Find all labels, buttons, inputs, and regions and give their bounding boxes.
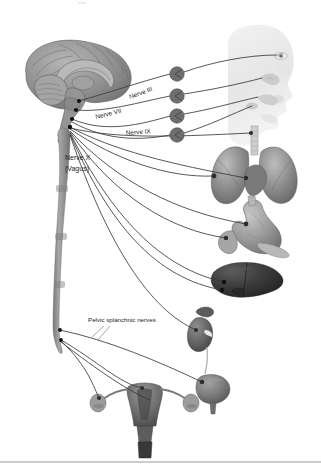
marker-stomach: [244, 222, 249, 227]
pancreas: [257, 243, 289, 258]
pelvic-to-uterus: [61, 340, 142, 388]
origin-pelvic-2: [59, 338, 63, 342]
eye-target: [275, 53, 288, 60]
marker-lung: [212, 174, 217, 179]
kidney-and-adrenal: [187, 307, 213, 374]
heart: [245, 165, 267, 196]
pelvic-to-ovary: [61, 341, 99, 398]
label-leader-lines: [92, 326, 110, 340]
marker-heart: [244, 176, 248, 180]
spinal-cord: [53, 128, 70, 353]
marker-duodenum: [224, 236, 228, 240]
vagus-to-duodenum: [70, 132, 226, 238]
top-artifact-mark: [78, 2, 86, 4]
label-pelvic-splanchnic: Pelvic splanchnic nerves: [88, 316, 156, 323]
uterus-ovaries: [90, 383, 199, 458]
marker-bladder: [200, 380, 205, 385]
diagram-labels: Nerve III Nerve VII Nerve IX Nerve X (Va…: [65, 85, 156, 323]
marker-liver-2: [220, 288, 224, 292]
origin-nerve-10: [68, 125, 72, 129]
label-nerve-10: Nerve X: [65, 154, 91, 161]
label-nerve-9: Nerve IX: [126, 127, 152, 136]
otic-ganglion: [170, 128, 184, 142]
figure-canvas: Nerve III Nerve VII Nerve IX Nerve X (Va…: [0, 0, 321, 475]
marker-ovary: [97, 396, 101, 400]
label-vagus: (Vagus): [65, 165, 89, 173]
marker-trachea: [249, 131, 253, 135]
ciliary-ganglion: [170, 67, 184, 81]
origin-nerve-7: [74, 108, 78, 112]
vagus-to-liver: [70, 133, 224, 282]
stomach-and-duodenum: [218, 196, 289, 258]
marker-uterus: [140, 386, 144, 390]
pelvic-leader-2: [98, 326, 110, 340]
ganglia-group: [170, 67, 184, 142]
origin-nerve-9: [70, 117, 74, 121]
marker-liver: [222, 280, 226, 284]
pterygopalatine-ganglion: [170, 89, 184, 103]
origin-nerve-3: [77, 99, 81, 103]
vagus-to-liver-2: [70, 134, 222, 290]
anatomy-diagram: Nerve III Nerve VII Nerve IX Nerve X (Va…: [0, 0, 321, 475]
nerve-9-preganglionic: [72, 116, 170, 127]
submandibular-ganglion: [170, 109, 184, 123]
head-profile-silhouette: [228, 25, 294, 145]
origin-pelvic-1: [58, 328, 62, 332]
pelvic-to-bladder: [60, 330, 202, 382]
label-nerve-3: Nerve III: [128, 85, 153, 100]
lungs-and-trachea: [211, 126, 297, 204]
vagus-to-trachea: [70, 128, 251, 136]
marker-kidney: [194, 328, 198, 332]
